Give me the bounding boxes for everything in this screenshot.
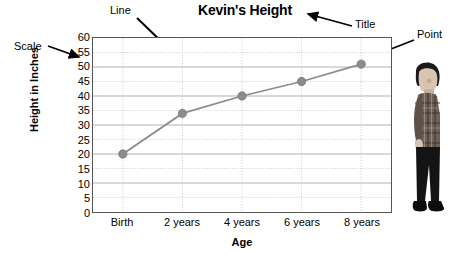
x-axis-title: Age — [92, 236, 392, 248]
data-point-8-years — [357, 60, 365, 68]
y-tick-30: 30 — [64, 120, 90, 131]
data-point-4-years — [238, 92, 246, 100]
x-tick-birth: Birth — [111, 216, 134, 228]
chart-page: Kevin's Height Scale Line Title Point He… — [0, 0, 465, 260]
plot-canvas — [93, 38, 391, 212]
y-tick-20: 20 — [64, 149, 90, 160]
chart-title: Kevin's Height — [198, 2, 292, 18]
y-tick-45: 45 — [64, 76, 90, 87]
arrow-title — [308, 14, 352, 26]
x-tick-8-years: 8 years — [344, 216, 380, 228]
y-axis-tick-labels: 60 55 50 45 40 35 30 25 20 15 10 5 0 — [60, 37, 90, 213]
y-tick-0: 0 — [64, 208, 90, 219]
y-axis-title: Height in Inches — [28, 52, 40, 132]
callout-label-point: Point — [417, 28, 442, 40]
y-tick-40: 40 — [64, 90, 90, 101]
y-tick-5: 5 — [64, 193, 90, 204]
plot-area — [92, 37, 392, 213]
y-tick-25: 25 — [64, 134, 90, 145]
y-tick-60: 60 — [64, 32, 90, 43]
data-point-2-years — [178, 109, 186, 117]
y-tick-55: 55 — [64, 46, 90, 57]
y-tick-50: 50 — [64, 61, 90, 72]
callout-label-title: Title — [355, 18, 375, 30]
y-tick-15: 15 — [64, 164, 90, 175]
x-axis-tick-labels: Birth 2 years 4 years 6 years 8 years — [92, 216, 392, 232]
callout-label-line: Line — [110, 4, 131, 16]
y-tick-35: 35 — [64, 105, 90, 116]
x-tick-4-years: 4 years — [224, 216, 260, 228]
boy-standing-profile-icon — [398, 55, 454, 235]
y-tick-10: 10 — [64, 178, 90, 189]
x-tick-2-years: 2 years — [164, 216, 200, 228]
x-tick-6-years: 6 years — [284, 216, 320, 228]
data-point-birth — [119, 150, 127, 158]
data-point-6-years — [297, 77, 305, 85]
boy-photo — [398, 55, 454, 235]
gridlines — [93, 38, 391, 212]
